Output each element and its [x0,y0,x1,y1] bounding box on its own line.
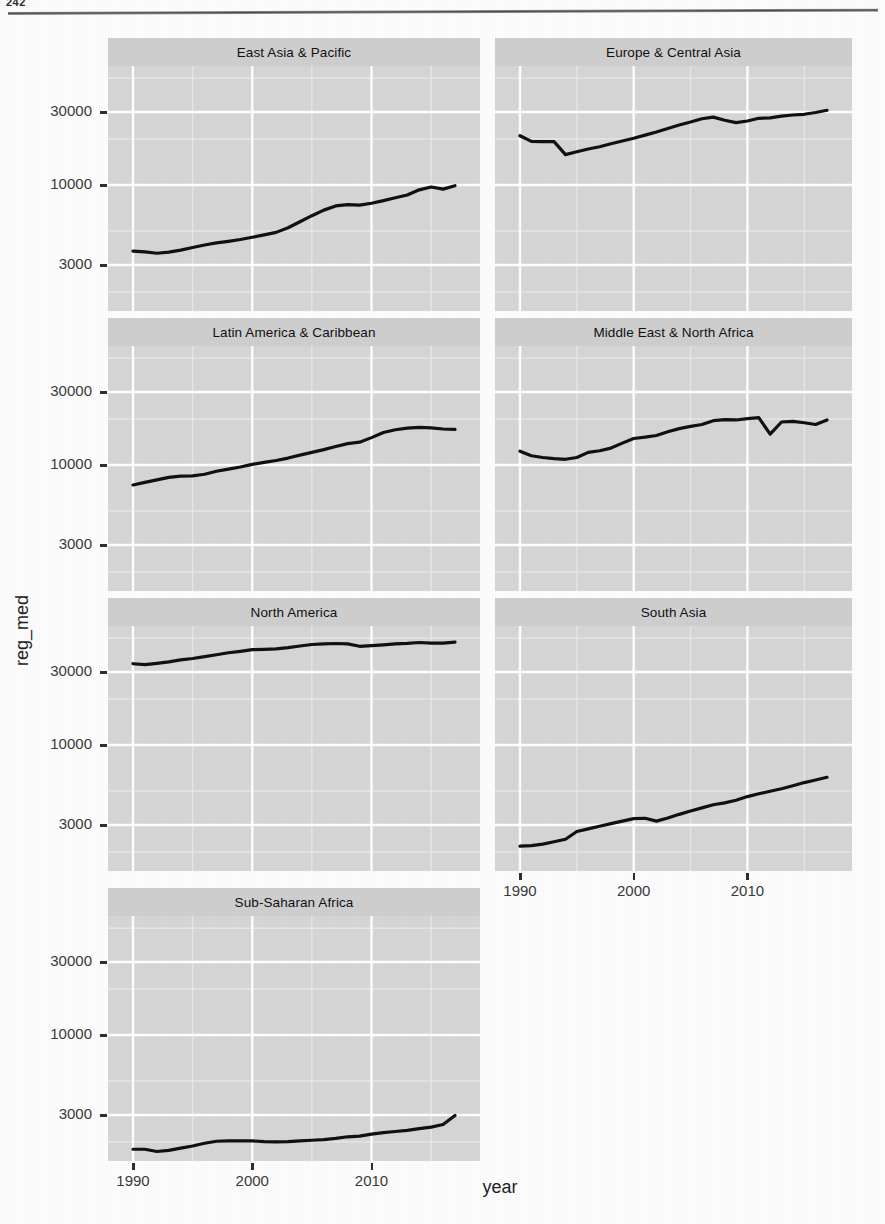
facet-strip-label: North America [251,605,338,620]
facet-panel [495,66,852,311]
x-tick-mark [633,873,636,880]
series-line [520,418,827,460]
y-tick-mark [100,961,107,964]
facet-strip-label: Latin America & Caribbean [212,325,375,340]
y-tick-label: 30000 [0,952,92,969]
panel-canvas [108,346,480,591]
x-tick-label: 2010 [332,1172,412,1189]
x-tick-mark [132,1163,135,1170]
facet-latin-america-caribbean: Latin America & Caribbean [108,318,480,591]
facet-middle-east-north-africa: Middle East & North Africa [495,318,852,591]
y-tick-mark [100,744,107,747]
panel-canvas [495,346,852,591]
facet-strip-label: Sub-Saharan Africa [235,895,354,910]
x-tick-label: 2010 [707,882,787,899]
facet-plot: East Asia & Pacific30001000030000Europe … [0,0,885,1224]
facet-strip: East Asia & Pacific [108,38,480,66]
y-tick-mark [100,464,107,467]
facet-east-asia-pacific: East Asia & Pacific [108,38,480,311]
y-tick-mark [100,1114,107,1117]
y-tick-mark [100,264,107,267]
y-tick-label: 3000 [0,535,92,552]
facet-panel [108,346,480,591]
facet-strip: South Asia [495,598,852,626]
facet-strip: Middle East & North Africa [495,318,852,346]
facet-panel [495,626,852,871]
scanned-page: 242 East Asia & Pacific30001000030000Eur… [0,0,885,1224]
panel-canvas [108,66,480,311]
y-tick-label: 10000 [0,175,92,192]
y-axis-title: reg_med [12,591,33,671]
facet-strip: Sub-Saharan Africa [108,888,480,916]
x-tick-label: 1990 [480,882,560,899]
panel-canvas [495,626,852,871]
facet-panel [495,346,852,591]
facet-strip-label: South Asia [641,605,707,620]
facet-north-america: North America [108,598,480,871]
y-tick-mark [100,184,107,187]
facet-strip-label: Middle East & North Africa [593,325,753,340]
facet-strip: Latin America & Caribbean [108,318,480,346]
y-tick-label: 10000 [0,455,92,472]
panel-canvas [108,626,480,871]
y-tick-mark [100,1034,107,1037]
x-tick-label: 2000 [212,1172,292,1189]
x-tick-mark [251,1163,254,1170]
y-tick-label: 3000 [0,1105,92,1122]
facet-strip-label: Europe & Central Asia [606,45,741,60]
facet-panel [108,626,480,871]
facet-sub-saharan-africa: Sub-Saharan Africa [108,888,480,1161]
x-axis-title: year [440,1177,560,1198]
y-tick-label: 30000 [0,102,92,119]
facet-strip-label: East Asia & Pacific [237,45,351,60]
y-tick-label: 10000 [0,735,92,752]
y-tick-label: 30000 [0,382,92,399]
y-tick-label: 3000 [0,815,92,832]
y-tick-label: 10000 [0,1025,92,1042]
facet-strip: Europe & Central Asia [495,38,852,66]
facet-south-asia: South Asia [495,598,852,871]
y-tick-label: 3000 [0,255,92,272]
x-tick-label: 2000 [594,882,674,899]
x-tick-mark [519,873,522,880]
y-tick-mark [100,671,107,674]
series-line [133,186,455,254]
facet-europe-central-asia: Europe & Central Asia [495,38,852,311]
series-line [133,642,455,664]
facet-panel [108,916,480,1161]
series-line [133,1115,455,1151]
panel-canvas [495,66,852,311]
x-tick-mark [371,1163,374,1170]
y-tick-mark [100,544,107,547]
series-line [520,777,827,846]
panel-canvas [108,916,480,1161]
y-tick-mark [100,391,107,394]
y-tick-mark [100,824,107,827]
y-tick-mark [100,111,107,114]
series-line [520,110,827,154]
facet-panel [108,66,480,311]
series-line [133,427,455,485]
x-tick-label: 1990 [93,1172,173,1189]
x-tick-mark [746,873,749,880]
facet-strip: North America [108,598,480,626]
